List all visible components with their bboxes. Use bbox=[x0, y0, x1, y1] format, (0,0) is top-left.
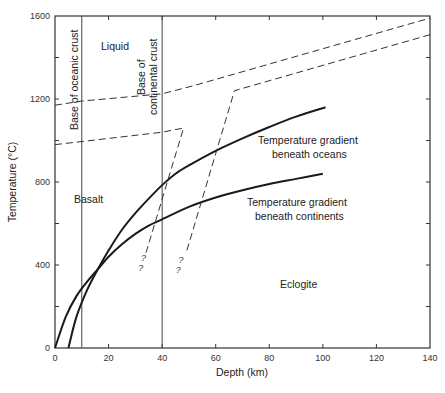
label-cont-gradient-1: Temperature gradient bbox=[247, 196, 347, 208]
question-mark: ? bbox=[138, 263, 143, 273]
label-basalt: Basalt bbox=[74, 193, 103, 205]
axis-ticks: 020406080100120140040080012001600 bbox=[30, 11, 438, 363]
y-tick-label: 1600 bbox=[30, 11, 50, 21]
plot-frame bbox=[55, 16, 430, 348]
question-marks: ???? bbox=[138, 253, 183, 275]
label-cont-gradient-2: beneath continents bbox=[255, 210, 344, 222]
label-continental-crust-2: continental crust bbox=[147, 38, 159, 115]
x-tick-label: 120 bbox=[369, 353, 384, 363]
plot-border bbox=[55, 16, 430, 348]
annotations: Depth (km) Temperature (°C) Liquid Basal… bbox=[6, 30, 358, 378]
series-lines bbox=[55, 18, 430, 348]
y-tick-label: 0 bbox=[45, 343, 50, 353]
label-liquid: Liquid bbox=[101, 40, 129, 52]
y-tick-label: 1200 bbox=[30, 94, 50, 104]
y-tick-label: 800 bbox=[35, 177, 50, 187]
label-eclogite: Eclogite bbox=[280, 278, 318, 290]
x-tick-label: 40 bbox=[157, 353, 167, 363]
x-tick-label: 80 bbox=[264, 353, 274, 363]
x-tick-label: 60 bbox=[211, 353, 221, 363]
question-mark: ? bbox=[176, 265, 181, 275]
question-mark: ? bbox=[178, 255, 183, 265]
x-tick-label: 140 bbox=[422, 353, 437, 363]
label-ocean-gradient-2: beneath oceans bbox=[272, 148, 347, 160]
label-continental-crust-1: Base of bbox=[135, 59, 147, 95]
x-tick-label: 0 bbox=[52, 353, 57, 363]
question-mark: ? bbox=[141, 253, 146, 263]
y-tick-label: 400 bbox=[35, 260, 50, 270]
label-oceanic-crust: Base of oceanic crust bbox=[68, 30, 80, 130]
label-ocean-gradient-1: Temperature gradient bbox=[258, 134, 358, 146]
x-axis-title: Depth (km) bbox=[216, 366, 268, 378]
x-tick-label: 100 bbox=[315, 353, 330, 363]
y-axis-title: Temperature (°C) bbox=[6, 142, 18, 223]
liquidus-boundary-line bbox=[55, 18, 430, 105]
chart: 020406080100120140040080012001600 Depth … bbox=[0, 0, 445, 393]
x-tick-label: 20 bbox=[104, 353, 114, 363]
